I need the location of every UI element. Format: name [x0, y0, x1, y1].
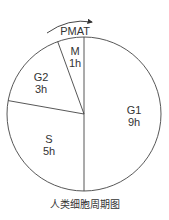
- m-name: M: [70, 45, 79, 57]
- cell-cycle-pie: PMAT M 1h G2 3h G1 9h S 5h: [0, 0, 169, 220]
- figure-caption: 人类细胞周期图: [0, 196, 169, 211]
- g1-value: 9h: [128, 116, 140, 128]
- g2-name: G2: [34, 71, 49, 83]
- g1-name: G1: [127, 104, 142, 116]
- pmat-label: PMAT: [60, 25, 90, 37]
- g2-value: 3h: [35, 83, 47, 95]
- m-value: 1h: [69, 57, 81, 69]
- s-name: S: [45, 133, 52, 145]
- s-value: 5h: [43, 145, 55, 157]
